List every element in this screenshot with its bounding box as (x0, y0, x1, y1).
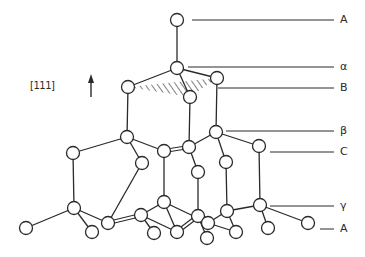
atom (86, 226, 99, 239)
layer-label-beta: β (340, 125, 347, 136)
shaded-111-plane (128, 78, 217, 97)
atom (302, 217, 315, 230)
bond (189, 97, 190, 147)
atom (121, 131, 134, 144)
atom (68, 202, 81, 215)
atom (221, 205, 234, 218)
layer-label-C: C (340, 146, 348, 157)
atom (192, 166, 205, 179)
atom (20, 222, 33, 235)
atom (230, 226, 243, 239)
layer-label-A_top: A (340, 14, 348, 25)
up-arrow-icon (88, 74, 94, 97)
atom (158, 196, 171, 209)
hatched-plane (128, 78, 217, 97)
bond (73, 137, 127, 153)
atom (171, 226, 184, 239)
atom (102, 217, 115, 230)
atom (202, 217, 215, 230)
atom (201, 232, 214, 245)
diamond-lattice-diagram (0, 0, 365, 257)
layer-label-A_bottom: A (340, 223, 348, 234)
atom (135, 209, 148, 222)
atom (220, 156, 233, 169)
atom (184, 91, 197, 104)
bond (216, 78, 217, 132)
atom (67, 147, 80, 160)
atom (254, 199, 267, 212)
atom (171, 62, 184, 75)
atom (211, 72, 224, 85)
atom (171, 14, 184, 27)
layer-label-B: B (340, 82, 348, 93)
atom (158, 145, 171, 158)
layer-label-alpha: α (340, 61, 347, 72)
bond (260, 205, 308, 223)
atom (148, 227, 161, 240)
layer-leader-lines (188, 20, 334, 229)
atom (136, 157, 149, 170)
layer-label-gamma: γ (340, 200, 347, 211)
direction-label: [111] (30, 80, 54, 91)
atom (253, 140, 266, 153)
bond (226, 162, 227, 211)
atom (210, 126, 223, 139)
bond (127, 87, 128, 137)
bond (259, 146, 260, 205)
atom (122, 81, 135, 94)
atom (262, 222, 275, 235)
bond (26, 208, 74, 228)
atom (183, 141, 196, 154)
bond (73, 153, 74, 208)
